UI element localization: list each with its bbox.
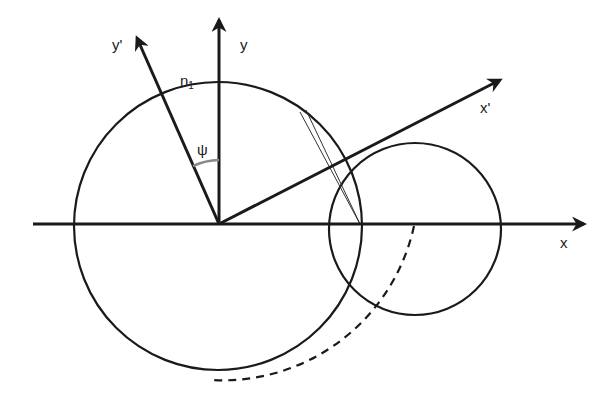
- n1-subscript: 1: [188, 80, 194, 91]
- x-axis-label: x: [560, 234, 568, 251]
- coordinate-diagram: x y x' y' n1 ψ: [0, 0, 614, 400]
- n1-label: n1: [180, 72, 194, 91]
- psi-label: ψ: [197, 141, 208, 158]
- psi-angle-arc: [193, 160, 219, 166]
- small-circle: [329, 143, 501, 315]
- x-prime-label: x': [480, 99, 491, 116]
- n1-main: n: [180, 72, 188, 89]
- y-prime-axis-arrow: [137, 38, 219, 224]
- dashed-arc: [211, 226, 414, 380]
- y-axis-label: y: [240, 36, 248, 53]
- y-prime-label: y': [112, 36, 123, 53]
